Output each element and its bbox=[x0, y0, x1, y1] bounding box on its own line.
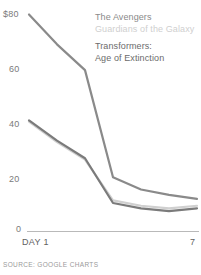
x-axis-label-end: 7 bbox=[190, 237, 195, 247]
x-axis-label-start: DAY 1 bbox=[22, 237, 49, 247]
legend-item-transformers-line1: Transformers: bbox=[95, 41, 201, 53]
legend-item-transformers-line2: Age of Extinction bbox=[95, 53, 201, 65]
y-axis-tick-60: 60 bbox=[9, 64, 19, 74]
line-chart: $80 60 40 20 0 DAY 1 7 The Avengers Guar… bbox=[0, 0, 201, 275]
y-axis-tick-80: $80 bbox=[3, 9, 19, 19]
y-axis-tick-20: 20 bbox=[9, 174, 19, 184]
series-line-transformers-age-of-extinction bbox=[29, 120, 197, 211]
legend-item-transformers-age-of-extinction: Transformers: Age of Extinction bbox=[95, 41, 201, 64]
legend-item-the-avengers: The Avengers bbox=[95, 12, 201, 24]
source-note: SOURCE: GOOGLE CHARTS bbox=[3, 261, 98, 268]
y-axis-tick-0: 0 bbox=[16, 224, 21, 234]
chart-legend: The Avengers Guardians of the Galaxy Tra… bbox=[95, 12, 201, 64]
y-axis-tick-40: 40 bbox=[9, 119, 19, 129]
legend-item-guardians-of-the-galaxy: Guardians of the Galaxy bbox=[95, 24, 201, 36]
